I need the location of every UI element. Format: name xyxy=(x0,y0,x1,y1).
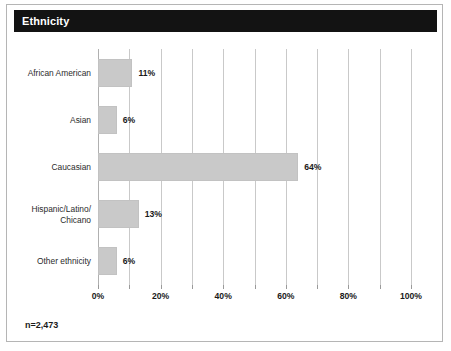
bar-rows: African American11%Asian6%Caucasian64%Hi… xyxy=(7,49,442,285)
axis-tick-label-40: 40% xyxy=(215,291,232,301)
bar-value-label: 6% xyxy=(123,256,135,266)
bar-value-label: 13% xyxy=(145,209,162,219)
bar-value-label: 6% xyxy=(123,115,135,125)
plot-wrapper: African American11%Asian6%Caucasian64%Hi… xyxy=(7,37,442,341)
tick-mark-50 xyxy=(255,285,256,289)
tick-mark-20 xyxy=(161,285,162,289)
bar-value-label: 64% xyxy=(304,162,321,172)
category-label: Hispanic/Latino/ Chicano xyxy=(7,204,91,225)
category-label: Caucasian xyxy=(7,162,91,173)
category-label: Asian xyxy=(7,115,91,126)
bar-row: Other ethnicity6% xyxy=(7,238,442,285)
sample-size-note: n=2,473 xyxy=(25,320,58,330)
axis-tick-label-100: 100% xyxy=(400,291,422,301)
category-label: African American xyxy=(7,67,91,78)
axis-tick-label-80: 80% xyxy=(340,291,357,301)
tick-mark-70 xyxy=(317,285,318,289)
bar xyxy=(98,59,132,87)
chart-header-bar: Ethnicity xyxy=(14,10,437,32)
axis-tick-label-60: 60% xyxy=(277,291,294,301)
bar xyxy=(98,200,139,228)
bar-value-label: 11% xyxy=(138,68,155,78)
bar xyxy=(98,106,117,134)
axis-tick-label-0: 0% xyxy=(92,291,104,301)
figure-container: Ethnicity African American11%Asian6%Cauc… xyxy=(6,4,443,342)
tick-mark-90 xyxy=(380,285,381,289)
category-label: Other ethnicity xyxy=(7,256,91,267)
bar xyxy=(98,153,298,181)
bar-row: Hispanic/Latino/ Chicano13% xyxy=(7,191,442,238)
bar-row: Caucasian64% xyxy=(7,143,442,190)
tick-mark-0 xyxy=(98,285,99,289)
bar-row: African American11% xyxy=(7,49,442,96)
tick-mark-80 xyxy=(348,285,349,289)
tick-mark-10 xyxy=(129,285,130,289)
bar xyxy=(98,247,117,275)
bar-row: Asian6% xyxy=(7,96,442,143)
tick-mark-40 xyxy=(223,285,224,289)
page-title: Ethnicity xyxy=(14,15,69,27)
tick-mark-60 xyxy=(286,285,287,289)
tick-mark-100 xyxy=(411,285,412,289)
tick-mark-30 xyxy=(192,285,193,289)
x-axis-tick-labels: 0%20%40%60%80%100% xyxy=(98,291,411,307)
axis-tick-label-20: 20% xyxy=(152,291,169,301)
